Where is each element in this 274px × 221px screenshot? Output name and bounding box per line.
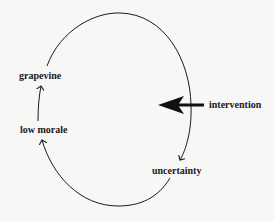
node-grapevine: grapevine (19, 71, 61, 81)
loop-arc-top (47, 13, 191, 160)
loop-arc-bottom (42, 140, 170, 206)
intervention-arrow-icon (158, 96, 204, 114)
node-intervention: intervention (209, 100, 261, 110)
feedback-loop-diagram (0, 0, 274, 221)
node-uncertainty: uncertainty (152, 166, 201, 176)
arrow-low-morale-to-grapevine (38, 86, 41, 121)
node-low-morale: low morale (20, 125, 68, 135)
